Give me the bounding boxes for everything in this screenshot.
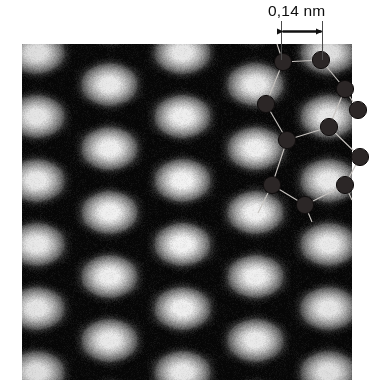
atom-7 bbox=[351, 148, 368, 165]
stm-image-frame bbox=[22, 44, 352, 380]
scale-label: 0,14 nm bbox=[268, 2, 325, 20]
stm-micrograph-canvas bbox=[22, 44, 352, 380]
scale-arrow-icon bbox=[275, 22, 329, 42]
stm-figure: 0,14 nm bbox=[0, 0, 380, 391]
